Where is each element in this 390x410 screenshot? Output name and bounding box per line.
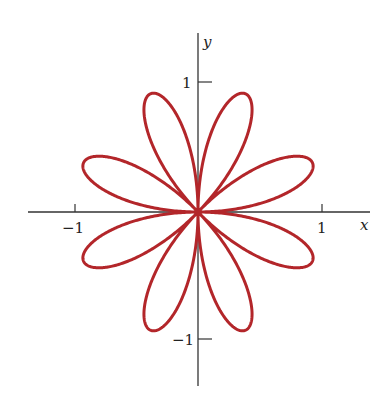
x-tick-label-pos1: 1 <box>317 219 327 237</box>
y-axis-label: y <box>202 33 212 51</box>
y-tick-label-neg1: −1 <box>172 331 194 349</box>
x-tick-label-neg1: −1 <box>62 219 84 237</box>
rose-plot: −1 1 1 −1 x y <box>0 0 390 410</box>
x-axis-label: x <box>360 216 369 234</box>
y-tick-label-pos1: 1 <box>182 74 192 92</box>
